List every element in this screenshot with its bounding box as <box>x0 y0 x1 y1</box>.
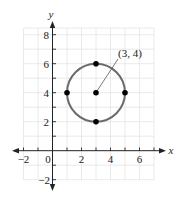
point-bottom <box>93 119 99 125</box>
center-annotation: (3, 4) <box>118 47 142 60</box>
y-tick-label: 8 <box>44 29 50 41</box>
point-top <box>93 61 99 67</box>
x-tick-label: 4 <box>108 153 114 165</box>
x-tick-label: 2 <box>79 153 85 165</box>
y-axis-label: y <box>48 8 54 20</box>
y-tick-label: 2 <box>44 116 50 128</box>
x-axis-label: x <box>168 144 174 156</box>
plot-svg: −2 0 2 4 6 x 8 6 4 2 −2 y (3, 4) <box>0 0 182 203</box>
point-left <box>64 90 70 96</box>
x-tick-label: −2 <box>18 153 30 165</box>
point-center <box>93 90 99 96</box>
circle-graph: −2 0 2 4 6 x 8 6 4 2 −2 y (3, 4) <box>0 0 182 203</box>
y-tick-label: 4 <box>44 87 50 99</box>
x-axis: −2 0 2 4 6 x <box>12 144 174 165</box>
y-axis-up-arrow-icon <box>50 21 55 28</box>
y-tick-label: −2 <box>38 174 50 186</box>
x-tick-label: 0 <box>45 153 51 165</box>
y-tick-label: 6 <box>44 58 50 70</box>
x-axis-right-arrow-icon <box>159 148 166 153</box>
x-tick-label: 6 <box>137 153 143 165</box>
y-axis-down-arrow-icon <box>50 184 55 191</box>
point-right <box>122 90 128 96</box>
